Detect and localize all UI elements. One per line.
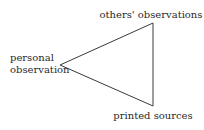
label-personal-line2: observation: [10, 64, 70, 75]
label-personal-line1: personal: [10, 52, 54, 63]
edge-personal-to-others: [60, 23, 153, 65]
label-printed-sources: printed sources: [113, 110, 192, 121]
triangle-diagram: others' observations personal observatio…: [0, 0, 204, 130]
edge-printed-to-personal: [60, 65, 153, 106]
label-others-observations: others' observations: [100, 9, 203, 20]
